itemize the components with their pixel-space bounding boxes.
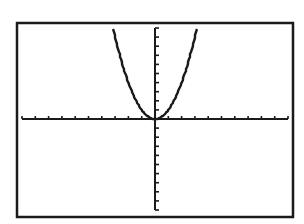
data-point: [141, 109, 143, 111]
data-point: [114, 36, 116, 38]
graph-screen: [0, 0, 304, 224]
data-point: [147, 116, 149, 118]
data-point: [194, 36, 196, 38]
data-point: [187, 61, 189, 63]
data-point: [167, 109, 169, 111]
data-point: [161, 116, 163, 118]
data-point: [154, 118, 156, 120]
data-point: [121, 61, 123, 63]
data-point: [134, 98, 136, 100]
data-point: [174, 98, 176, 100]
data-point: [127, 82, 129, 84]
data-point: [181, 82, 183, 84]
